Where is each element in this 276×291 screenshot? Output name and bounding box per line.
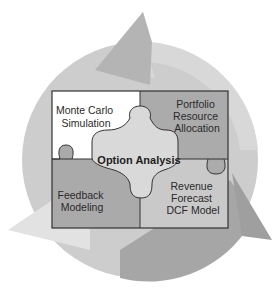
label-feedback: Feedback Modeling: [57, 189, 106, 213]
knob-right: [207, 159, 225, 174]
label-monte-carlo: Monte Carlo Simulation: [56, 104, 116, 129]
label-option-analysis: Option Analysis: [97, 154, 180, 166]
label-portfolio: Portfolio Resource Allocation: [173, 98, 221, 134]
cycle-diagram: Monte Carlo Simulation Portfolio Resourc…: [0, 0, 276, 291]
label-revenue: Revenue Forecast DCF Model: [166, 180, 219, 216]
